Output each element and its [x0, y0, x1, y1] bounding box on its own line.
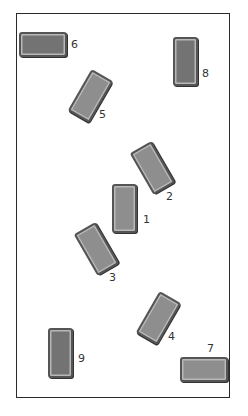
block-7-label: 7	[207, 343, 214, 354]
block-9-label: 9	[78, 353, 85, 364]
block-7	[180, 357, 228, 382]
block-8	[173, 37, 198, 86]
block-2-label: 2	[166, 191, 173, 202]
block-6	[19, 32, 67, 57]
block-3-label: 3	[109, 272, 116, 283]
block-1-label: 1	[143, 214, 150, 225]
block-6-label: 6	[71, 39, 78, 50]
block-4-label: 4	[168, 331, 175, 342]
block-8-label: 8	[202, 68, 209, 79]
block-1	[112, 184, 137, 233]
block-9	[48, 328, 73, 378]
block-5-label: 5	[99, 109, 106, 120]
